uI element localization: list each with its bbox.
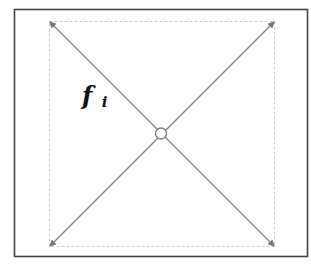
label-subscript: i bbox=[102, 93, 108, 111]
diagram-canvas: f i bbox=[0, 0, 311, 272]
label-symbol: f bbox=[80, 81, 96, 110]
vector-label-f: f i bbox=[80, 81, 108, 111]
center-node-circle bbox=[156, 128, 167, 139]
